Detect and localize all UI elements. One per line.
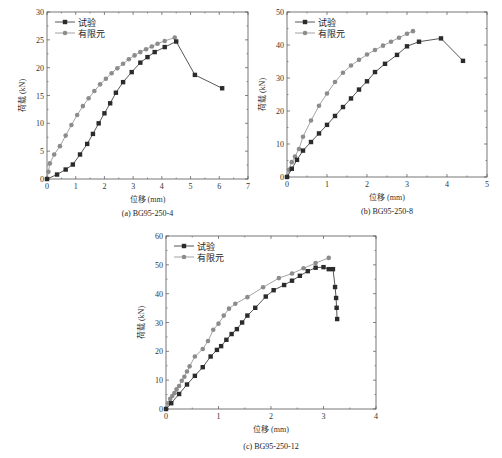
data-point-fem (233, 301, 238, 306)
y-axis-label: 荷载 (kN) (17, 79, 27, 112)
data-point-test (55, 172, 59, 176)
data-point-fem (132, 53, 137, 58)
legend: 试验有限元 (295, 17, 345, 39)
y-tick-label: 30 (36, 8, 44, 17)
series-fem-line (166, 258, 329, 409)
x-tick-label: 1 (217, 412, 221, 421)
y-tick-label: 5 (40, 147, 44, 156)
data-point-fem (48, 161, 53, 166)
data-point-test (334, 306, 338, 310)
data-point-test (335, 317, 339, 321)
data-point-fem (301, 134, 306, 139)
legend-fem-label: 有限元 (318, 28, 345, 39)
x-tick-label: 5 (485, 180, 489, 189)
x-tick-label: 5 (189, 182, 193, 191)
data-point-test (321, 265, 325, 269)
data-point-test (306, 269, 310, 273)
data-point-test (282, 283, 286, 287)
data-point-test (219, 344, 223, 348)
legend-fem-label: 有限元 (197, 252, 224, 263)
data-point-fem (193, 354, 198, 359)
data-point-fem (317, 103, 322, 108)
data-point-fem (211, 327, 216, 332)
legend-circle-icon (63, 31, 68, 36)
data-point-fem (115, 66, 120, 71)
data-point-fem (69, 123, 74, 128)
y-tick-label: 10 (276, 140, 284, 149)
data-point-test (108, 101, 112, 105)
y-tick-label: 50 (276, 8, 284, 17)
data-point-test (220, 86, 224, 90)
data-point-test (71, 162, 75, 166)
legend-square-icon (63, 20, 67, 24)
data-point-test (145, 55, 149, 59)
data-point-fem (75, 113, 80, 118)
data-point-fem (326, 256, 331, 261)
series-test-line (166, 267, 337, 409)
data-point-test (341, 105, 345, 109)
figure-canvas: 01234567051015202530位移 (mm)荷载 (kN)(a) BG… (0, 0, 502, 458)
data-point-fem (297, 147, 302, 152)
x-tick-label: 3 (405, 180, 409, 189)
data-point-test (224, 338, 228, 342)
x-axis-label: 位移 (mm) (130, 194, 166, 204)
data-point-fem (177, 384, 182, 389)
x-tick-label: 7 (246, 182, 250, 191)
data-point-test (121, 80, 125, 84)
legend-fem-label: 有限元 (78, 28, 105, 39)
data-point-fem (182, 374, 187, 379)
y-tick-label: 60 (155, 232, 163, 241)
y-tick-label: 0 (40, 175, 44, 184)
legend-test-label: 试验 (197, 241, 215, 252)
data-point-test (373, 70, 377, 74)
legend-test-label: 试验 (318, 17, 336, 28)
y-axis-label: 荷载 (kN) (257, 78, 267, 111)
data-point-fem (109, 71, 114, 76)
data-point-test (313, 266, 317, 270)
data-point-test (164, 407, 168, 411)
data-point-test (240, 320, 244, 324)
chart-b: 01234501020304050位移 (mm)荷载 (kN)(b) BG95-… (257, 8, 489, 216)
data-point-fem (301, 266, 306, 271)
x-tick-label: 2 (269, 412, 273, 421)
data-point-fem (81, 104, 86, 109)
data-point-fem (245, 295, 250, 300)
data-point-test (417, 40, 421, 44)
x-tick-label: 2 (365, 180, 369, 189)
data-point-fem (325, 91, 330, 96)
data-point-test (85, 142, 89, 146)
data-point-test (327, 267, 331, 271)
y-tick-label: 40 (276, 41, 284, 50)
x-tick-label: 0 (164, 412, 168, 421)
data-point-fem (381, 43, 386, 48)
data-point-test (253, 306, 257, 310)
data-point-fem (86, 96, 91, 101)
x-axis-label: 位移 (mm) (253, 424, 289, 434)
data-point-fem (397, 35, 402, 40)
series-fem-line (47, 38, 175, 179)
data-point-fem (365, 52, 370, 57)
data-point-fem (290, 271, 295, 276)
x-tick-label: 3 (322, 412, 326, 421)
data-point-test (333, 285, 337, 289)
data-point-test (383, 62, 387, 66)
data-point-test (177, 392, 181, 396)
y-tick-label: 15 (36, 92, 44, 101)
data-point-fem (172, 35, 177, 40)
data-point-fem (405, 31, 410, 36)
data-point-fem (46, 169, 51, 174)
data-point-fem (185, 369, 190, 374)
data-point-test (365, 79, 369, 83)
data-point-fem (261, 285, 266, 290)
data-point-test (295, 158, 299, 162)
data-point-fem (150, 44, 155, 49)
data-point-test (245, 313, 249, 317)
data-point-fem (216, 321, 221, 326)
data-point-test (271, 288, 275, 292)
x-tick-label: 3 (131, 182, 135, 191)
data-point-fem (411, 29, 416, 34)
data-point-fem (121, 61, 126, 66)
data-point-fem (98, 82, 103, 87)
legend: 试验有限元 (55, 17, 105, 39)
chart-caption: (b) BG95-250-8 (361, 207, 413, 216)
